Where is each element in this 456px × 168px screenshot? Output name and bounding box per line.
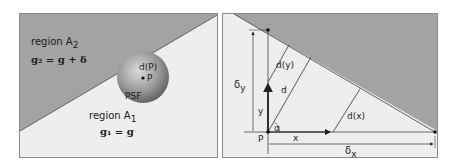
delta-x-label: δx	[345, 146, 356, 158]
region-a1-label: region A1	[89, 111, 136, 124]
right-diagram-graphic	[223, 14, 438, 158]
point-p-label: P	[147, 74, 152, 83]
region-a1-formula: g₁ = g	[100, 127, 134, 137]
alpha-label: α	[274, 124, 280, 133]
y-label: y	[258, 107, 263, 116]
left-diagram-panel: region A2 g₂ = g + δ d(P) P PSF region A…	[19, 13, 218, 158]
delta-y-label: δy	[234, 80, 245, 93]
point-p-dot	[266, 130, 270, 134]
top-intersection-dot	[266, 28, 270, 32]
p-label: P	[258, 135, 263, 144]
region-a2-label: region A2	[31, 37, 78, 50]
point-p-dot	[141, 76, 144, 79]
d-y-label: d(y)	[276, 61, 294, 70]
d-x-label: d(x)	[347, 112, 365, 121]
right-intersection-dot	[433, 130, 437, 134]
right-diagram-panel: δy d(y) d d(x) y α P x δx	[222, 13, 438, 158]
region-a2-formula: g₂ = g + δ	[31, 55, 87, 65]
psf-label: PSF	[125, 92, 141, 101]
x-label: x	[293, 134, 298, 143]
psf-distance-label: d(P)	[139, 63, 157, 72]
d-label: d	[281, 86, 287, 95]
